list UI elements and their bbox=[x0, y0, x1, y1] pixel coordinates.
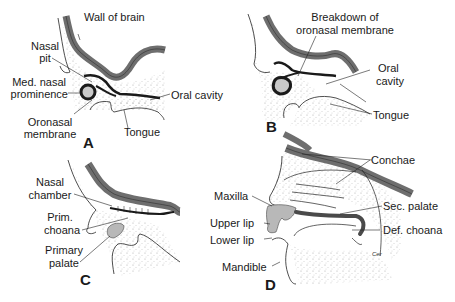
label-oronasal-line1: Oronasal bbox=[20, 116, 80, 128]
label-nasal-chamber-line1: Nasal bbox=[30, 176, 70, 188]
label-prim-choana-line1: Prim. bbox=[40, 211, 80, 223]
label-upper-lip: Upper lip bbox=[210, 217, 254, 229]
label-lower-lip: Lower lip bbox=[210, 234, 254, 246]
label-med-nasal-line1: Med. nasal bbox=[0, 76, 66, 88]
label-oral-line1: Oral bbox=[378, 62, 399, 74]
panel-letter-d: D bbox=[265, 276, 276, 293]
brain-wall-c bbox=[88, 164, 180, 212]
label-tongue-b: Tongue bbox=[373, 109, 409, 121]
label-oral-line2: cavity bbox=[376, 75, 404, 87]
label-mandible: Mandible bbox=[222, 261, 267, 273]
label-conchae: Conchae bbox=[371, 154, 415, 166]
secondary-palate-d bbox=[296, 212, 363, 234]
label-nasal-chamber-line2: chamber bbox=[26, 189, 74, 201]
med-nasal-prominence-b bbox=[273, 78, 290, 95]
label-wall-of-brain: Wall of brain bbox=[84, 11, 145, 23]
panel-c-drawing bbox=[68, 160, 180, 276]
brain-wall-a bbox=[66, 16, 165, 77]
label-nasal-pit-line2: pit bbox=[30, 52, 60, 64]
maxilla-d bbox=[267, 205, 297, 233]
panel-d-drawing bbox=[252, 148, 412, 285]
label-med-nasal-line2: prominence bbox=[0, 88, 68, 100]
med-nasal-prominence-a bbox=[81, 85, 95, 99]
panel-a-drawing bbox=[52, 16, 170, 128]
label-primary-palate-line2: palate bbox=[44, 257, 84, 269]
label-breakdown-line1: Breakdown of bbox=[290, 11, 400, 23]
label-oral-cavity-a: Oral cavity bbox=[171, 89, 223, 101]
label-breakdown-line2: oronasal membrane bbox=[290, 24, 400, 36]
label-nasal-pit-line1: Nasal bbox=[30, 40, 60, 52]
label-oronasal-line2: membrane bbox=[20, 128, 80, 140]
label-tongue-a: Tongue bbox=[124, 126, 160, 138]
label-prim-choana-line2: choana bbox=[40, 224, 84, 236]
label-maxilla: Maxilla bbox=[214, 190, 248, 202]
label-sec-palate: Sec. palate bbox=[383, 200, 438, 212]
panel-letter-a: A bbox=[83, 134, 94, 151]
panel-letter-b: B bbox=[266, 118, 277, 135]
artist-mark: Cer bbox=[372, 251, 382, 257]
panel-letter-c: C bbox=[80, 271, 91, 288]
label-primary-palate-line1: Primary bbox=[42, 244, 86, 256]
label-def-choana: Def. choana bbox=[383, 224, 442, 236]
